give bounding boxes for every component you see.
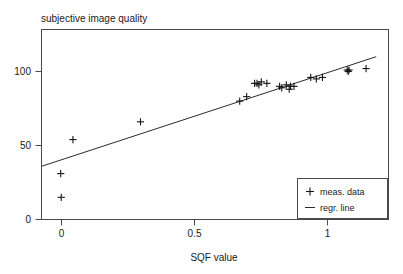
- y-tick-label-100: 100: [14, 66, 31, 77]
- y-tick-label-0: 0: [25, 214, 31, 225]
- x-tick-label-0: 0: [59, 228, 65, 239]
- chart-figure: subjective image quality 0 50 100 0 0.5 …: [0, 0, 403, 274]
- chart-title: subjective image quality: [41, 13, 147, 24]
- x-axis-label: SQF value: [190, 252, 238, 263]
- y-tick-label-50: 50: [20, 140, 32, 151]
- x-tick-label-0p5: 0.5: [188, 228, 202, 239]
- legend-label-meas-data: meas. data: [320, 187, 365, 197]
- x-tick-label-1: 1: [325, 228, 331, 239]
- legend-label-regr-line: regr. line: [320, 203, 355, 213]
- scatter-plot: subjective image quality 0 50 100 0 0.5 …: [0, 0, 403, 274]
- legend: meas. data regr. line: [298, 179, 388, 219]
